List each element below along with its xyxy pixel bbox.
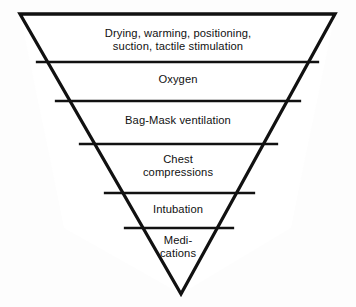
band-fill-oxygen <box>30 62 325 101</box>
band-fill-medications <box>64 228 291 294</box>
pyramid-diagram <box>0 0 356 307</box>
inverted-pyramid-figure: Drying, warming, positioning, suction, t… <box>0 0 356 307</box>
band-fill-drying <box>20 14 335 62</box>
band-fill-chest <box>47 144 308 193</box>
band-fill-intubation <box>57 193 298 228</box>
